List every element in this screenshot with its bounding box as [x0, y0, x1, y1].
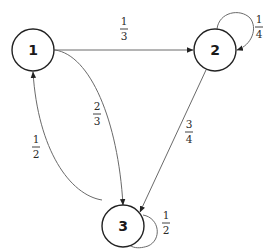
edge-2-to-3 [140, 70, 206, 212]
edge-label-1-to-3: 2 3 [93, 100, 101, 127]
fraction-numerator: 1 [121, 15, 128, 27]
fraction-numerator: 3 [186, 118, 193, 130]
node-1: 1 [12, 29, 54, 71]
fraction-denominator: 2 [163, 224, 170, 236]
node-1-label: 1 [28, 42, 38, 58]
fraction-numerator: 1 [256, 13, 263, 25]
fraction-denominator: 4 [256, 28, 263, 40]
fraction-numerator: 1 [33, 133, 40, 145]
fraction-denominator: 3 [121, 30, 128, 42]
fraction-numerator: 2 [94, 100, 101, 112]
edge-label-2-to-2: 1 4 [255, 13, 263, 40]
edge-label-3-to-1: 1 2 [32, 133, 40, 160]
edge-label-2-to-3: 3 4 [185, 118, 193, 145]
state-diagram: 1 2 3 1 3 1 4 2 3 3 4 1 2 1 2 [0, 0, 274, 249]
node-2-label: 2 [210, 42, 220, 58]
edge-label-3-to-3: 1 2 [162, 209, 170, 236]
fraction-numerator: 1 [163, 209, 170, 221]
edge-label-1-to-2: 1 3 [120, 15, 128, 42]
fraction-denominator: 4 [186, 133, 193, 145]
edge-3-to-1 [33, 72, 102, 200]
node-3: 3 [102, 205, 144, 247]
node-3-label: 3 [118, 218, 128, 234]
fraction-denominator: 2 [33, 148, 40, 160]
fraction-denominator: 3 [94, 115, 101, 127]
edge-1-to-3 [55, 50, 123, 205]
node-2: 2 [194, 29, 236, 71]
